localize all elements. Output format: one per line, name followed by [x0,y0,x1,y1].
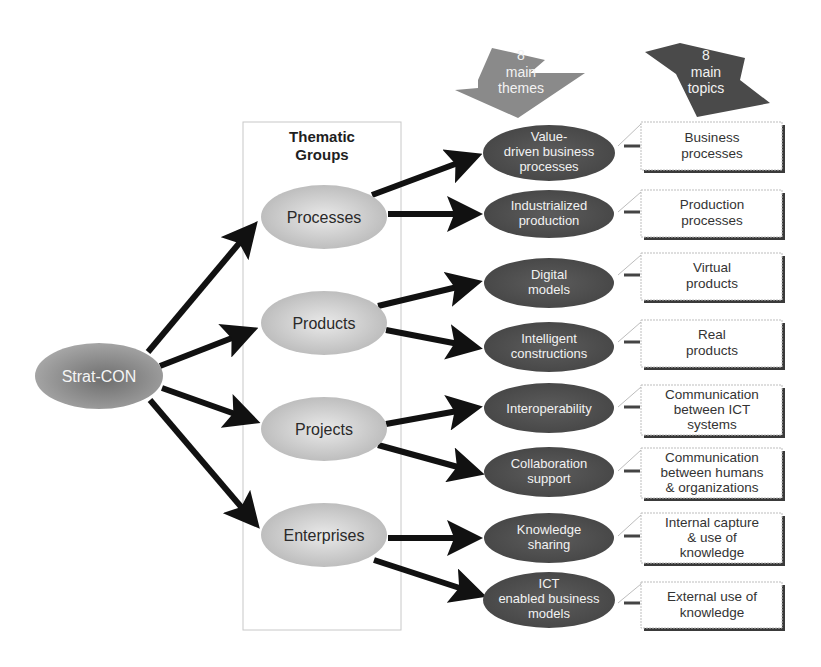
root-node-label: Strat-CON [62,368,137,385]
topic-label-line: Production [680,197,745,212]
topic-box-external-use-knowledge[interactable]: External use of knowledge [618,582,785,631]
topic-label-line: processes [681,213,743,228]
topic-label-line: Virtual [693,260,731,275]
topics-header-line-3: topics [688,80,725,96]
topic-label-line: Internal capture [665,515,759,530]
topics-header-arrow: 8 main topics [645,43,770,117]
group-node-processes[interactable]: Processes [261,185,387,249]
theme-node-value-driven-business-processes[interactable]: Value- driven business processes [483,125,615,181]
theme-label-line: Intelligent [521,331,577,346]
thematic-groups-title-line-1: Thematic [289,128,355,145]
theme-label-line: production [519,213,580,228]
theme-label-line: ICT [539,576,560,591]
theme-label-line: models [528,606,570,621]
theme-node-interoperability[interactable]: Interoperability [484,383,614,433]
topic-label-line: knowledge [680,545,745,560]
theme-node-intelligent-constructions[interactable]: Intelligent constructions [484,322,614,372]
topic-box-communication-humans-organizations[interactable]: Communication between humans & organizat… [618,448,785,501]
theme-node-ict-enabled-business-models[interactable]: ICT enabled business models [483,572,615,628]
themes-header-line-2: main [506,64,536,80]
topic-box-real-products[interactable]: Real products [618,320,785,370]
themes-header-line-1: 8 [517,47,525,63]
topic-box-production-processes[interactable]: Production processes [618,190,785,240]
group-node-products[interactable]: Products [261,291,387,355]
group-node-label: Processes [287,209,362,226]
theme-label-line: Value- [531,129,568,144]
topics-header-line-2: main [691,64,721,80]
theme-label-line: driven business [504,144,595,159]
theme-label-line: constructions [511,346,588,361]
group-node-enterprises[interactable]: Enterprises [261,503,387,567]
theme-label-line: models [528,282,570,297]
theme-label-line: Industrialized [511,198,588,213]
root-to-group-arrows [148,228,254,522]
topic-label-line: External use of [667,589,757,604]
group-node-label: Products [292,315,355,332]
group-node-projects[interactable]: Projects [261,397,387,461]
topic-label-line: & use of [687,530,737,545]
topic-box-internal-capture-knowledge[interactable]: Internal capture & use of knowledge [618,513,785,566]
topic-box-communication-ict-systems[interactable]: Communication between ICT systems [618,385,785,438]
topic-label-line: between humans [661,465,764,480]
theme-label-line: enabled business [498,591,600,606]
theme-label-line: Knowledge [517,522,581,537]
theme-label-line: Interoperability [506,401,592,416]
theme-label-line: support [527,471,571,486]
themes-header-arrow: 8 main themes [455,47,585,118]
topic-label-line: processes [681,146,743,161]
theme-label-line: Digital [531,267,567,282]
topic-label-line: products [686,343,738,358]
topic-label-line: between ICT [674,402,751,417]
theme-node-digital-models[interactable]: Digital models [484,258,614,308]
theme-node-collaboration-support[interactable]: Collaboration support [484,447,614,497]
topics-header-line-1: 8 [702,47,710,63]
topic-label-line: knowledge [680,605,745,620]
group-to-theme-arrows [372,157,478,594]
theme-node-knowledge-sharing[interactable]: Knowledge sharing [484,513,614,563]
topic-label-line: & organizations [665,480,758,495]
topic-box-business-processes[interactable]: Business processes [618,122,785,173]
theme-label-line: Collaboration [511,456,588,471]
theme-label-line: sharing [528,537,571,552]
themes-header-line-3: themes [498,80,544,96]
topic-label-line: systems [687,417,737,432]
topic-label-line: Business [685,130,740,145]
topic-label-line: Communication [665,450,759,465]
topic-label-line: Real [698,327,726,342]
theme-node-industrialized-production[interactable]: Industrialized production [484,190,614,238]
topic-label-line: products [686,276,738,291]
group-node-label: Enterprises [284,527,365,544]
theme-label-line: processes [519,159,579,174]
topic-label-line: Communication [665,387,759,402]
topic-box-virtual-products[interactable]: Virtual products [618,253,785,303]
strat-con-diagram: 8 main themes 8 main topics Thematic Gro… [0,0,821,667]
root-node-strat-con[interactable]: Strat-CON [35,343,163,409]
group-node-label: Projects [295,421,353,438]
thematic-groups-title-line-2: Groups [295,146,348,163]
